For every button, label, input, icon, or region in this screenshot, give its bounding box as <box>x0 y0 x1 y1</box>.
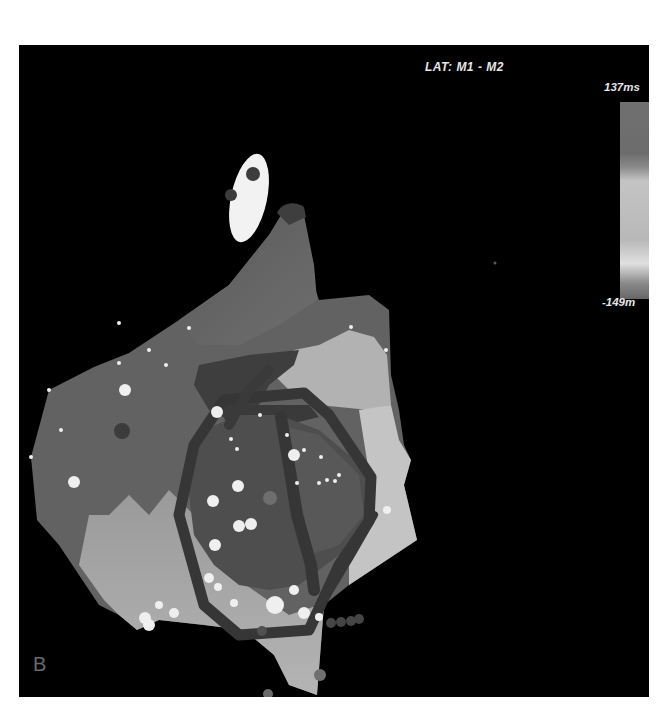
stray-point <box>494 262 497 265</box>
electroanatomic-map <box>19 45 649 697</box>
lesion-dots-lower <box>326 614 364 628</box>
map-panel: LAT: M1 - M2 137ms -149m B <box>19 45 649 697</box>
panel-label: B <box>33 653 46 676</box>
colorbar <box>620 102 649 299</box>
map-title: LAT: M1 - M2 <box>425 60 504 74</box>
colorbar-max-label: 137ms <box>604 81 640 93</box>
colorbar-min-label: -149m <box>602 296 635 308</box>
